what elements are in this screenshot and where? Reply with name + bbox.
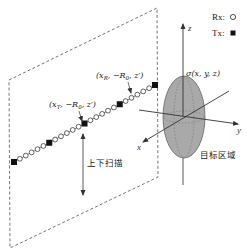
rx-antenna-circle-icon [35, 147, 40, 152]
rx-antenna-circle-icon [17, 156, 22, 161]
target-region [163, 76, 205, 158]
antenna-array [11, 82, 158, 165]
rx-antenna-circle-icon [106, 108, 111, 113]
rx-antenna-circle-icon [123, 99, 128, 104]
tx-antenna-square-icon [11, 159, 17, 165]
reflectivity-label: σ(x, y, z) [186, 69, 220, 78]
rx-antenna-circle-icon [41, 144, 46, 149]
rx-antenna-circle-icon [59, 134, 64, 139]
rx-antenna-circle-icon [53, 137, 58, 142]
tx-pointer-arrow [79, 111, 82, 121]
legend: Rx: Tx: [212, 12, 236, 38]
z-axis-label: z [187, 23, 192, 33]
rx-antenna-circle-icon [129, 95, 134, 100]
scanning-geometry-diagram: z y x σ(x, y, z) 目标区域 (xT, −R0, z′) (xR,… [0, 0, 247, 251]
rx-antenna-circle-icon [64, 131, 69, 136]
rx-antenna-circle-icon [76, 124, 81, 129]
legend-rx-label: Rx: [212, 12, 225, 22]
legend-tx-label: Tx: [212, 28, 225, 38]
rx-antenna-circle-icon [100, 111, 105, 116]
tx-antenna-square-icon [152, 82, 158, 88]
rx-legend-circle-icon [230, 14, 235, 19]
tx-antenna-square-icon [46, 140, 52, 146]
rx-antenna-circle-icon [70, 128, 75, 133]
tx-position-label: (xT, −R0, z′) [49, 100, 96, 110]
rx-antenna-circle-icon [135, 92, 140, 97]
rx-antenna-circle-icon [147, 86, 152, 91]
tx-legend-square-icon [231, 31, 236, 36]
x-axis-label: x [136, 142, 141, 152]
rx-pointer-arrow [128, 82, 131, 93]
rx-antenna-circle-icon [23, 153, 28, 158]
rx-antenna-circle-icon [94, 115, 99, 120]
y-axis-label: y [236, 125, 241, 135]
rx-position-label: (xR, −R0, z′) [96, 71, 143, 81]
tx-antenna-square-icon [117, 101, 123, 107]
rx-antenna-circle-icon [141, 89, 146, 94]
scan-label: 上下扫描 [87, 158, 123, 168]
tx-antenna-square-icon [82, 121, 88, 127]
rx-antenna-circle-icon [29, 150, 34, 155]
target-region-label: 目标区域 [200, 150, 236, 160]
rx-antenna-circle-icon [88, 118, 93, 123]
rx-antenna-circle-icon [111, 105, 116, 110]
scan-plane [9, 8, 158, 248]
